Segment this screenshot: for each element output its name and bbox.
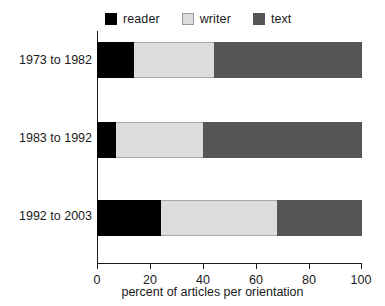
chart-legend: reader writer text xyxy=(105,11,291,27)
legend-label-writer: writer xyxy=(200,13,231,26)
x-tick-20 xyxy=(150,264,151,269)
x-tick-label-80: 80 xyxy=(302,274,316,287)
x-tick-60 xyxy=(256,264,257,269)
bar-row xyxy=(97,200,362,236)
category-label-1992-to-2003: 1992 to 2003 xyxy=(2,210,92,223)
legend-item-writer[interactable]: writer xyxy=(182,13,231,26)
x-tick-40 xyxy=(203,264,204,269)
plot-area: 0 20 40 60 80 100 xyxy=(97,31,362,264)
x-axis-line xyxy=(97,263,362,264)
legend-swatch-text-icon xyxy=(253,13,265,25)
x-tick-100 xyxy=(361,264,362,269)
x-tick-80 xyxy=(309,264,310,269)
category-axis-labels: 1973 to 1982 1983 to 1992 1992 to 2003 xyxy=(0,31,92,264)
bar-segment-text xyxy=(277,200,362,236)
bar-segment-reader xyxy=(97,122,116,158)
legend-swatch-writer-icon xyxy=(182,13,194,25)
x-tick-0 xyxy=(97,264,98,269)
bar-row xyxy=(97,122,362,158)
legend-item-reader[interactable]: reader xyxy=(105,13,160,26)
x-tick-label-100: 100 xyxy=(351,274,372,287)
x-tick-label-0: 0 xyxy=(94,274,101,287)
bar-segment-reader xyxy=(97,42,134,78)
category-label-1973-to-1982: 1973 to 1982 xyxy=(2,54,92,67)
bar-segment-writer xyxy=(116,122,203,158)
bar-segment-text xyxy=(203,122,362,158)
legend-label-text: text xyxy=(271,13,292,26)
bar-segment-writer xyxy=(134,42,214,78)
bar-segment-writer xyxy=(161,200,278,236)
category-label-1983-to-1992: 1983 to 1992 xyxy=(2,132,92,145)
bar-segment-reader xyxy=(97,200,161,236)
legend-item-text[interactable]: text xyxy=(253,13,292,26)
stacked-bar-chart: reader writer text 1973 to 1982 1983 to … xyxy=(0,0,385,306)
legend-swatch-reader-icon xyxy=(105,13,117,25)
bar-segment-text xyxy=(214,42,362,78)
x-axis-title: percent of articles per orientation xyxy=(0,286,385,299)
bar-row xyxy=(97,42,362,78)
legend-label-reader: reader xyxy=(123,13,160,26)
